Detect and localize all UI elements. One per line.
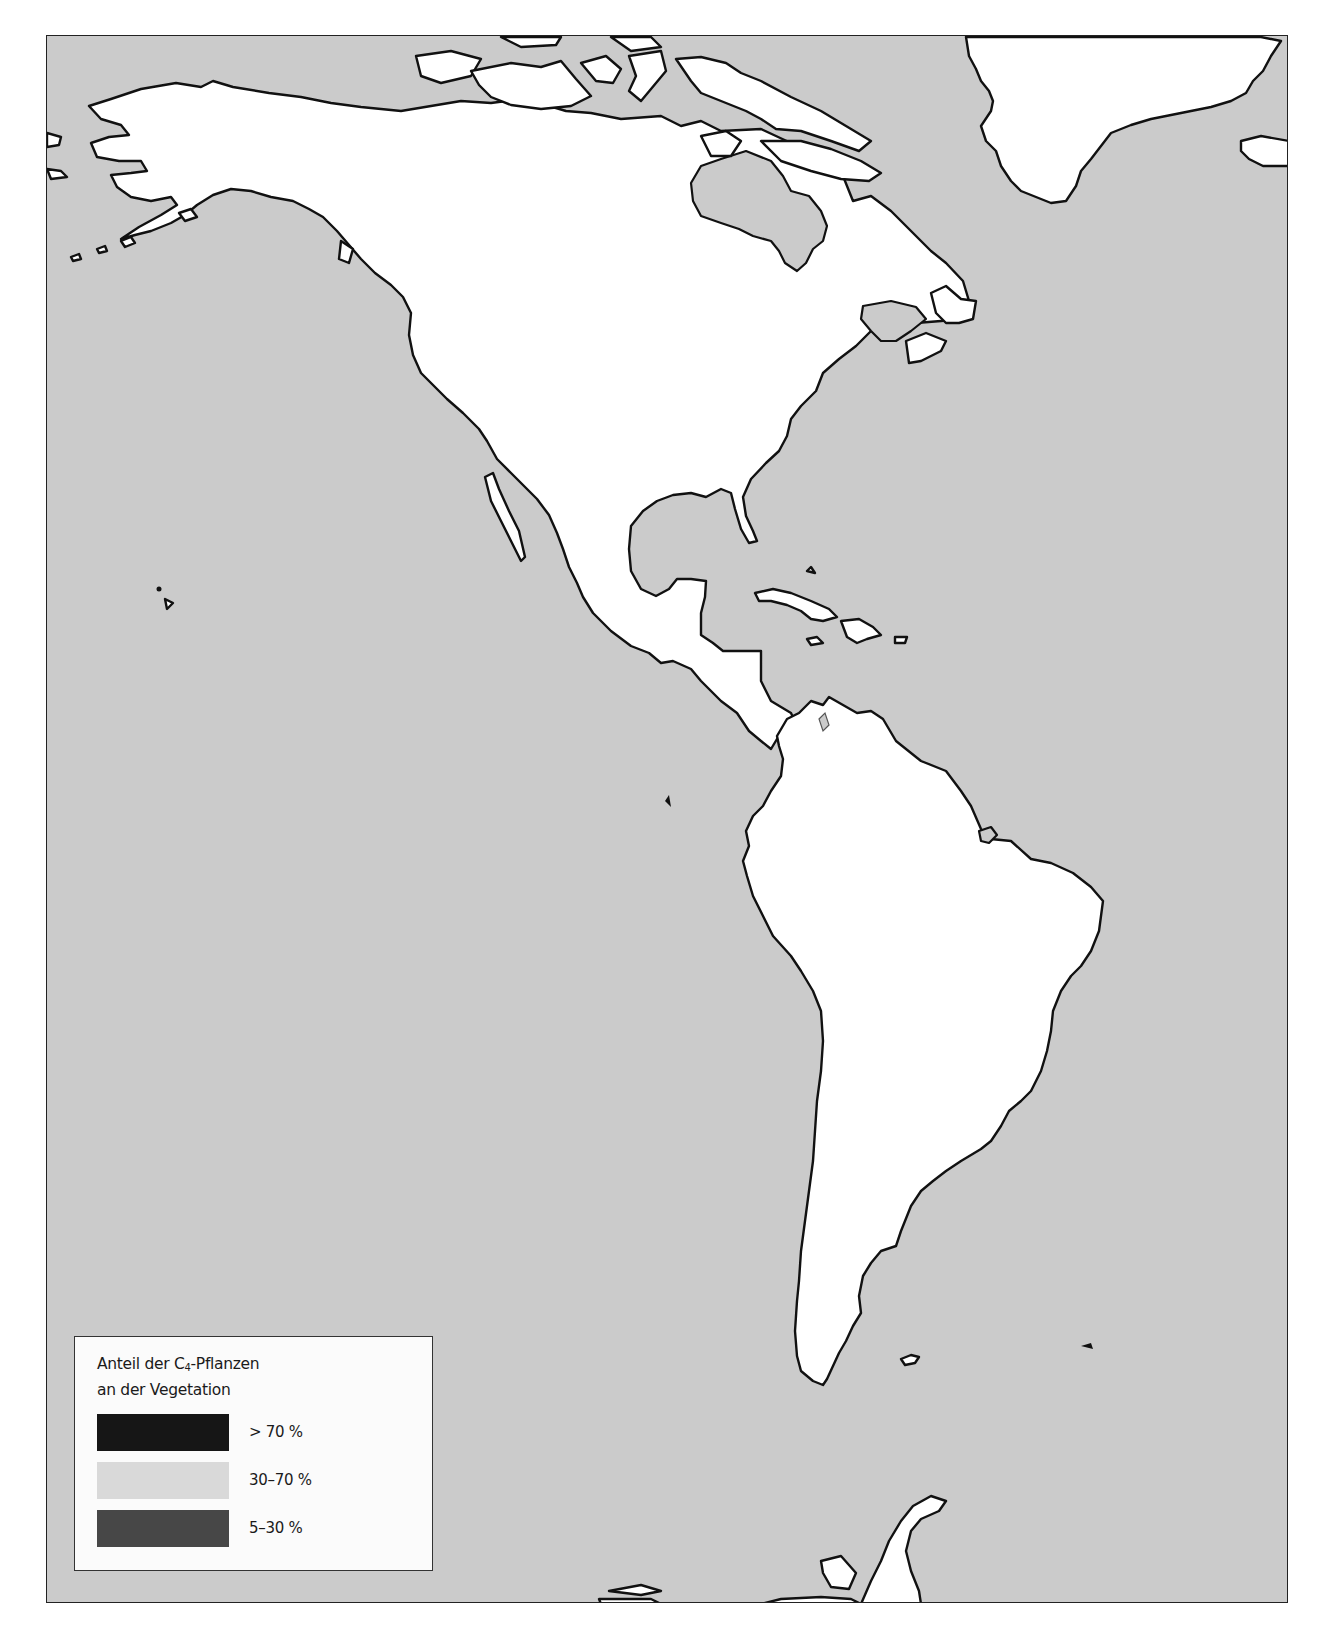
legend-item-over-70: > 70 % [97,1413,432,1451]
antarctic-island-1 [821,1556,856,1589]
legend: Anteil der C4-Pflanzen an der Vegetation… [74,1336,433,1571]
hispaniola [841,619,881,643]
arctic-island-3 [581,56,621,83]
antarctic-island-3 [599,1599,661,1603]
alaska-island-4 [71,254,81,261]
legend-title-suffix: -Pflanzen [191,1355,260,1373]
legend-label-30-70: 30–70 % [249,1471,312,1489]
baja-california [485,473,525,561]
legend-title-line2: an der Vegetation [97,1381,230,1399]
cuba [755,589,837,621]
legend-item-30-70: 30–70 % [97,1461,432,1499]
legend-title-prefix: Anteil der C [97,1355,184,1373]
antarctic-island-2 [609,1585,661,1595]
legend-swatch-30-70 [97,1462,229,1499]
antarctic-coast-west [761,1597,861,1603]
legend-label-over-70: > 70 % [249,1423,303,1441]
st-lawrence-island [47,169,67,179]
puerto-rico [895,637,907,643]
arctic-island-4 [629,51,666,101]
legend-swatch-over-70 [97,1414,229,1451]
alaska-island-3 [97,246,107,253]
jamaica [807,637,823,645]
antarctic-peninsula [861,1496,946,1603]
iceland [1241,136,1288,166]
arctic-island-1 [416,51,481,83]
legend-label-5-30: 5–30 % [249,1519,302,1537]
south-georgia-island [1081,1343,1093,1349]
galapagos-island [665,795,671,807]
arctic-island-8 [501,37,561,47]
north-america-landmass [89,81,969,749]
arctic-island-7 [611,37,661,51]
legend-title: Anteil der C4-Pflanzen an der Vegetation [97,1351,432,1403]
falkland-islands [901,1355,919,1365]
greenland [966,37,1281,203]
hawaii-islet [157,587,162,592]
hawaii-island [165,599,173,609]
gulf-st-lawrence [861,301,926,341]
legend-swatch-5-30 [97,1510,229,1547]
siberia-tip [47,133,61,147]
nova-scotia [906,333,946,363]
bahamas-island [807,567,815,573]
south-america-landmass [743,697,1103,1385]
cut-off-caption [0,0,1337,4]
legend-item-5-30: 5–30 % [97,1509,432,1547]
